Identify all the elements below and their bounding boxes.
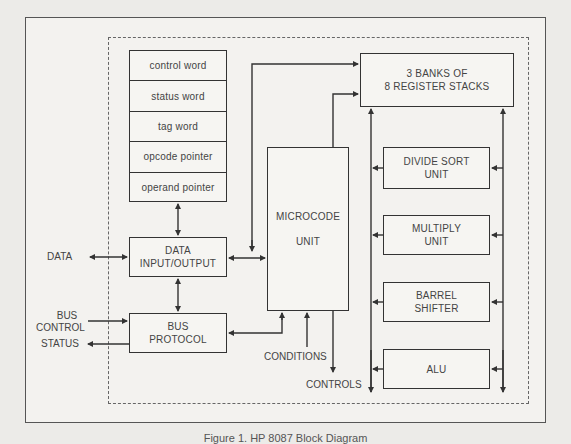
status-registers-stack: control word status word tag word opcode… bbox=[129, 50, 227, 202]
multiply-label-1: MULTIPLY bbox=[412, 222, 461, 235]
conditions-label: CONDITIONS bbox=[264, 351, 327, 363]
multiply-unit-block: MULTIPLYUNIT bbox=[383, 215, 490, 255]
status-signal-label: STATUS bbox=[41, 338, 79, 350]
controls-label: CONTROLS bbox=[306, 379, 362, 391]
microcode-label-2: UNIT bbox=[276, 235, 340, 248]
register-stacks-label-1: 3 BANKS OF bbox=[385, 67, 490, 80]
barrel-shifter-block: BARRELSHIFTER bbox=[383, 282, 490, 322]
multiply-label-2: UNIT bbox=[412, 235, 461, 248]
register-control-word: control word bbox=[130, 51, 226, 81]
alu-block: ALU bbox=[383, 349, 490, 389]
bus-protocol-label-2: PROTOCOL bbox=[149, 333, 207, 346]
register-tag-word: tag word bbox=[130, 112, 226, 142]
data-io-label-2: INPUT/OUTPUT bbox=[140, 257, 216, 270]
bus-protocol-block: BUSPROTOCOL bbox=[129, 313, 227, 353]
divide-sort-unit-block: DIVIDE SORTUNIT bbox=[383, 147, 490, 189]
register-opcode-pointer: opcode pointer bbox=[130, 142, 226, 172]
register-stacks-label-2: 8 REGISTER STACKS bbox=[385, 80, 490, 93]
bus-protocol-label-1: BUS bbox=[149, 320, 207, 333]
data-io-block: DATAINPUT/OUTPUT bbox=[129, 237, 227, 277]
divide-label-1: DIVIDE SORT bbox=[404, 155, 470, 168]
barrel-label-2: SHIFTER bbox=[414, 302, 458, 315]
microcode-label-1: MICROCODE bbox=[276, 210, 340, 223]
data-io-label-1: DATA bbox=[140, 244, 216, 257]
microcode-unit-block: MICROCODEUNIT bbox=[267, 147, 349, 311]
data-signal-label: DATA bbox=[47, 251, 72, 263]
barrel-label-1: BARREL bbox=[414, 289, 458, 302]
register-operand-pointer: operand pointer bbox=[130, 173, 226, 203]
alu-label: ALU bbox=[426, 363, 446, 376]
bus-control-label-1: BUS bbox=[52, 310, 82, 322]
divide-label-2: UNIT bbox=[404, 168, 470, 181]
register-status-word: status word bbox=[130, 81, 226, 111]
bus-control-label-2: CONTROL bbox=[36, 322, 85, 334]
register-stacks-block: 3 BANKS OF8 REGISTER STACKS bbox=[360, 53, 514, 107]
figure-caption: Figure 1. HP 8087 Block Diagram bbox=[0, 432, 571, 444]
